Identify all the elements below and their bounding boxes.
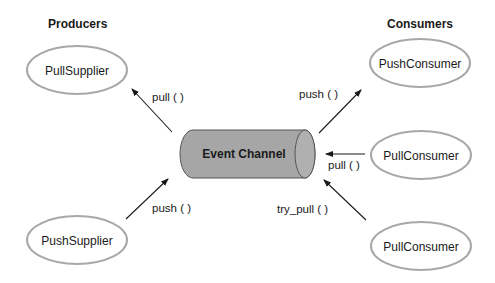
edge-label-try-pull: try_pull ( ) bbox=[277, 203, 328, 215]
edge-label-pull: pull ( ) bbox=[152, 91, 184, 103]
pull-consumer-label: PullConsumer bbox=[383, 149, 458, 163]
pull-consumer-node[interactable]: PullConsumer bbox=[371, 131, 471, 179]
producers-header: Producers bbox=[48, 17, 108, 31]
push-consumer-label: PushConsumer bbox=[379, 57, 462, 71]
arrow-try-pull-consumer bbox=[324, 180, 366, 220]
event-channel[interactable]: Event Channel bbox=[180, 130, 315, 178]
push-supplier-node[interactable]: PushSupplier bbox=[27, 216, 127, 264]
pull-consumer-label: PullConsumer bbox=[383, 240, 458, 254]
edge-label-push: push ( ) bbox=[152, 202, 191, 214]
consumers-header: Consumers bbox=[387, 17, 453, 31]
edge-label-pull: pull ( ) bbox=[328, 159, 360, 171]
edge-label-push: push ( ) bbox=[299, 88, 338, 100]
channel-end-cap bbox=[295, 130, 315, 178]
event-channel-diagram: Producers Consumers Event Channel PullSu… bbox=[0, 0, 495, 283]
pull-supplier-node[interactable]: PullSupplier bbox=[27, 46, 127, 94]
pull-supplier-label: PullSupplier bbox=[45, 64, 109, 78]
pull-consumer-node[interactable]: PullConsumer bbox=[371, 222, 471, 270]
channel-label: Event Channel bbox=[202, 147, 285, 161]
push-supplier-label: PushSupplier bbox=[41, 234, 112, 248]
push-consumer-node[interactable]: PushConsumer bbox=[370, 39, 470, 87]
